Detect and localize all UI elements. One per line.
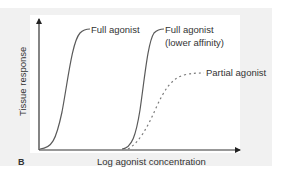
y-axis-label: Tissue response [17, 47, 28, 116]
full-agonist-lower-affinity-label-line2: (lower affinity) [165, 37, 224, 48]
dose-response-chart: Full agonist Full agonist (lower affinit… [0, 0, 281, 176]
full-agonist-lower-affinity-label-line1: Full agonist [165, 24, 214, 35]
partial-agonist-label: Partial agonist [206, 67, 267, 78]
full-agonist-label: Full agonist [91, 24, 140, 35]
full-agonist-lower-affinity-curve [122, 29, 164, 149]
panel-letter: B [18, 157, 25, 167]
x-axis-label: Log agonist concentration [97, 156, 206, 167]
full-agonist-curve [40, 29, 90, 149]
